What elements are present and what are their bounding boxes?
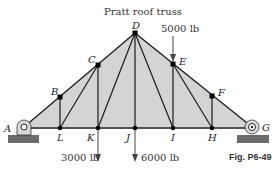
pratt-truss-diagram: Pratt roof truss 5000 lb 3000 lb 6000 lb…: [0, 0, 279, 170]
figure-label: Fig. P6-49: [229, 152, 272, 162]
truss-fill: [24, 33, 252, 127]
load-arrow-J: [132, 130, 138, 162]
load-label-K: 3000 lb: [61, 152, 99, 163]
node-label-D: D: [131, 20, 140, 31]
node-label-E: E: [178, 56, 187, 67]
load-arrow-E: [170, 36, 176, 62]
node-label-B: B: [50, 86, 58, 97]
node-label-K: K: [86, 132, 95, 143]
node-label-I: I: [170, 132, 176, 143]
diagram-title: Pratt roof truss: [104, 6, 182, 17]
node-label-C: C: [88, 54, 96, 65]
node-label-J: J: [124, 132, 131, 143]
node-label-H: H: [207, 132, 217, 143]
load-label-E: 5000 lb: [161, 23, 199, 34]
load-label-J: 6000 lb: [141, 152, 179, 163]
node-label-A: A: [3, 123, 11, 134]
node-label-L: L: [56, 132, 64, 143]
node-label-G: G: [262, 122, 270, 133]
node-label-F: F: [217, 87, 226, 98]
